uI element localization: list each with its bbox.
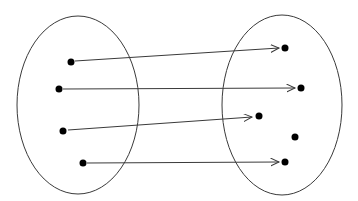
domain-element-4 [80,160,87,167]
mapping-diagram-canvas [0,0,358,201]
mapping-diagram-svg [0,0,358,201]
mapping-arrow-3 [68,117,252,130]
codomain-element-5 [282,159,289,166]
codomain-set-ellipse [222,15,342,195]
codomain-element-3 [256,113,263,120]
codomain-element-1 [282,45,289,52]
codomain-element-2 [298,85,305,92]
mapping-arrow-1 [75,48,279,61]
domain-set-ellipse [17,16,139,194]
mapping-arrow-4 [87,162,279,163]
domain-element-1 [68,59,75,66]
domain-element-2 [56,86,63,93]
codomain-element-4 [292,134,299,141]
domain-element-3 [60,128,67,135]
mapping-arrow-2 [63,88,295,89]
